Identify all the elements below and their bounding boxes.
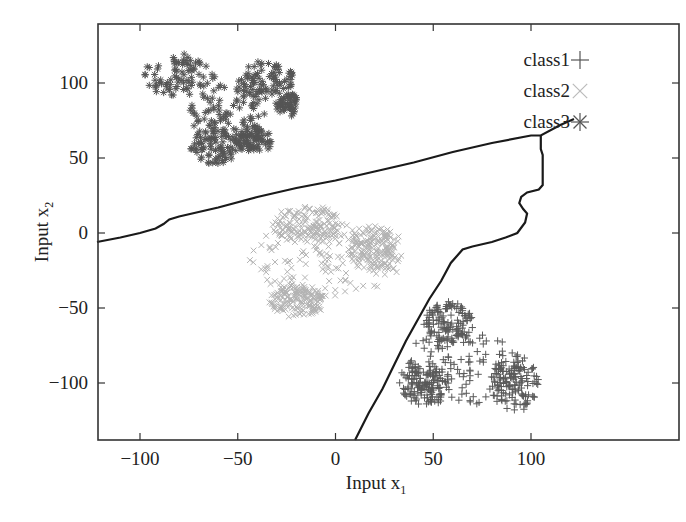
x-axis-label: Input x1 xyxy=(346,472,406,497)
decision-boundary-line xyxy=(355,136,543,441)
star-marker-icon xyxy=(571,113,589,131)
legend-item-class2: class2 xyxy=(524,80,588,101)
y-tick-label: 0 xyxy=(79,222,89,243)
y-tick-label: 100 xyxy=(60,72,89,93)
x-tick-label: 0 xyxy=(331,448,341,469)
series-class3 xyxy=(141,50,299,167)
cross-marker-icon xyxy=(573,84,587,98)
x-tick-label: −50 xyxy=(223,448,253,469)
legend-item-class3: class3 xyxy=(524,111,589,132)
legend-item-class1: class1 xyxy=(524,49,589,70)
legend: class1 class2 class3 xyxy=(524,49,589,132)
y-tick-label: −100 xyxy=(49,372,88,393)
y-tick-label: 50 xyxy=(69,147,88,168)
x-tick-label: −100 xyxy=(120,448,159,469)
y-axis-label: Input x2 xyxy=(31,202,56,262)
legend-label: class1 xyxy=(524,49,570,70)
y-axis-label-subscript: 2 xyxy=(42,202,56,208)
y-tick-label: −50 xyxy=(58,297,88,318)
scatter-chart: −100−50050100 −100−50050100 Input x1 Inp… xyxy=(0,0,686,522)
legend-label: class2 xyxy=(524,80,570,101)
decision-boundaries xyxy=(97,119,574,440)
chart-canvas: −100−50050100 −100−50050100 Input x1 Inp… xyxy=(0,0,686,522)
series-class1 xyxy=(396,298,542,413)
x-axis-label-subscript: 1 xyxy=(400,483,406,497)
scatter-points xyxy=(141,50,541,413)
x-tick-label: 100 xyxy=(517,448,546,469)
legend-label: class3 xyxy=(524,111,570,132)
plus-marker-icon xyxy=(571,51,589,69)
x-tick-label: 50 xyxy=(424,448,443,469)
series-class2 xyxy=(247,204,404,319)
